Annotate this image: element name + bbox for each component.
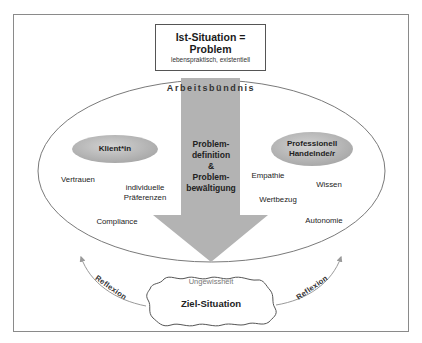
working-alliance-label: Arbeitsbündnis — [150, 83, 272, 93]
uncertainty-label: Ungewissheit — [170, 277, 252, 286]
professional-attr-empathy: Empathie — [243, 171, 293, 181]
professional-badge-label: Professionell Handelnde/r — [271, 139, 353, 159]
reflection-arrow-right — [276, 257, 341, 305]
professional-badge-line-1: Professionell — [271, 139, 353, 149]
current-situation-subtitle: lebenspraktisch, existentiell — [171, 55, 250, 64]
professional-attr-knowledge: Wissen — [309, 180, 349, 190]
arrow-text-line-5: bewältigung — [178, 183, 244, 194]
process-arrow-text: Problem- definition & Problem- bewältigu… — [178, 139, 244, 194]
reflection-arrow-left — [81, 257, 146, 306]
client-attr-preferences: Präferenzen — [110, 193, 180, 203]
client-attr-compliance: Compliance — [86, 217, 148, 227]
current-situation-title-2: Problem — [189, 43, 231, 55]
client-attr-trust: Vertrauen — [48, 175, 108, 185]
professional-badge-line-2: Handelnde/r — [271, 149, 353, 159]
client-attr-individual: individuelle — [110, 183, 180, 193]
professional-attr-autonomy: Autonomie — [296, 216, 352, 226]
arrow-text-line-1: Problem- — [178, 139, 244, 150]
client-badge-label: Klient*in — [75, 144, 155, 154]
goal-situation-label: Ziel-Situation — [165, 298, 257, 309]
current-situation-box: Ist-Situation = Problem lebenspraktisch,… — [155, 24, 266, 71]
professional-attr-values: Wertbezug — [253, 195, 303, 205]
arrow-text-line-3: & — [178, 161, 244, 172]
arrow-text-line-2: definition — [178, 150, 244, 161]
arrow-text-line-4: Problem- — [178, 172, 244, 183]
current-situation-title-1: Ist-Situation = — [176, 31, 246, 43]
